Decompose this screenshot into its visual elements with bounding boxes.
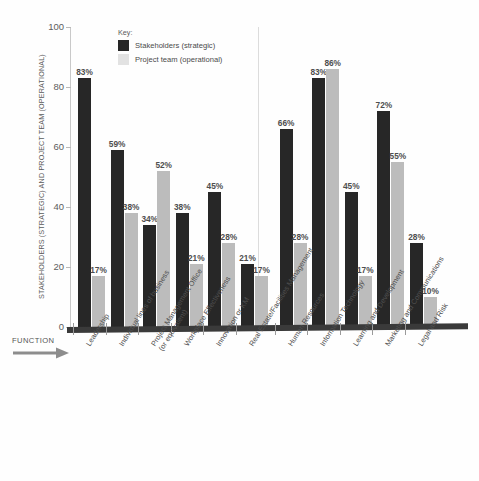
- bar-value-label: 21%: [237, 253, 258, 263]
- y-axis-tick-mark: [66, 27, 71, 28]
- bar-value-label: 45%: [204, 181, 225, 191]
- bar-value-label: 45%: [341, 181, 362, 191]
- bar-value-label: 28%: [406, 232, 427, 242]
- y-axis-tick-mark: [66, 147, 71, 148]
- bar-value-label: 83%: [74, 67, 95, 77]
- x-axis-tick-mark: [73, 323, 74, 335]
- bar-project-team: [125, 213, 138, 327]
- bar-value-label: 52%: [153, 160, 174, 170]
- bar-value-label: 38%: [172, 202, 193, 212]
- arrow-right-icon: [12, 347, 70, 359]
- bar-value-label: 17%: [355, 265, 376, 275]
- bar-value-label: 21%: [186, 253, 207, 263]
- y-axis-tick-mark: [66, 207, 71, 208]
- bar-project-team: [391, 162, 404, 327]
- y-axis-line: [70, 27, 71, 327]
- y-axis-tick-mark: [66, 267, 71, 268]
- bar-value-label: 17%: [88, 265, 109, 275]
- bar-value-label: 17%: [251, 265, 272, 275]
- y-axis-tick-label: 100: [42, 21, 64, 32]
- plot-area: 020406080100 83%17%59%38%34%52%38%21%45%…: [70, 27, 468, 327]
- bar-project-team: [157, 171, 170, 327]
- y-axis-tick-label: 80: [42, 81, 64, 92]
- bar-value-label: 66%: [276, 118, 297, 128]
- bar-stakeholders: [111, 150, 124, 327]
- x-axis-tick-mark: [236, 323, 237, 335]
- x-axis-tick-mark: [405, 323, 406, 335]
- bar-value-label: 86%: [322, 58, 343, 68]
- bar-value-label: 38%: [121, 202, 142, 212]
- x-axis-title: FUNCTION: [12, 336, 76, 345]
- bar-project-team: [326, 69, 339, 327]
- bar-value-label: 28%: [218, 232, 239, 242]
- y-axis-tick-label: 40: [42, 201, 64, 212]
- y-axis-tick-mark: [66, 87, 71, 88]
- bar-value-label: 72%: [373, 100, 394, 110]
- bar-stakeholders: [78, 78, 91, 327]
- x-axis-title-block: FUNCTION: [12, 336, 76, 359]
- bar-value-label: 59%: [107, 139, 128, 149]
- bar-value-label: 55%: [387, 151, 408, 161]
- y-axis-title: STAKEHOLDERS (STRATEGIC) AND PROJECT TEA…: [37, 32, 46, 322]
- bar-chart: STAKEHOLDERS (STRATEGIC) AND PROJECT TEA…: [0, 0, 479, 481]
- y-axis-tick-label: 20: [42, 261, 64, 272]
- bar-stakeholders: [312, 78, 325, 327]
- y-axis-tick-label: 60: [42, 141, 64, 152]
- x-axis-tick-mark: [275, 323, 276, 335]
- bar-value-label: 28%: [290, 232, 311, 242]
- y-axis-tick-label: 0: [42, 321, 64, 332]
